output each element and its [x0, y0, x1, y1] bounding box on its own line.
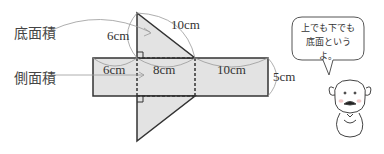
dim-rect-left: 6cm [103, 62, 125, 78]
mascot-character [329, 80, 371, 137]
dim-rect-height: 5cm [273, 69, 295, 85]
dim-triangle-height: 6cm [107, 28, 129, 44]
bottom-triangle-base [137, 96, 195, 141]
leader-base-area [52, 19, 150, 32]
base-area-label: 底面積 [14, 22, 56, 42]
speech-line-1: 上でも下でも [297, 21, 359, 35]
speech-line-2: 底面というよ。 [297, 35, 359, 63]
dim-rect-mid: 8cm [153, 62, 175, 78]
speech-bubble-text: 上でも下でも 底面というよ。 [297, 17, 359, 59]
lateral-area-label: 側面積 [14, 67, 56, 87]
dim-hypotenuse: 10cm [171, 17, 200, 33]
dim-rect-right: 10cm [217, 62, 246, 78]
